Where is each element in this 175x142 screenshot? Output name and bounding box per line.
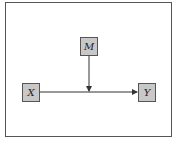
node-m: M (80, 37, 98, 56)
node-y: Y (138, 83, 156, 102)
node-y-label: Y (144, 87, 151, 98)
node-x-label: X (27, 87, 34, 98)
node-x: X (22, 83, 40, 102)
node-m-label: M (84, 41, 94, 52)
diagram-canvas (0, 0, 175, 142)
